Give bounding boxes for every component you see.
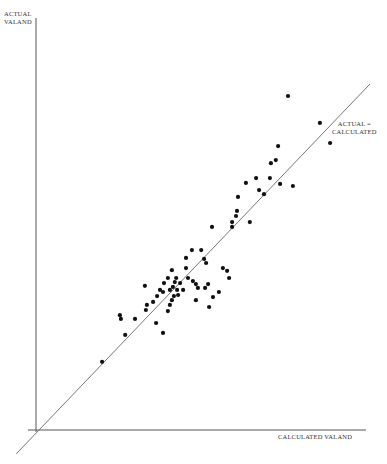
data-point bbox=[178, 281, 182, 285]
data-point bbox=[211, 295, 215, 299]
data-point bbox=[100, 360, 104, 364]
data-point bbox=[171, 285, 175, 289]
data-point bbox=[210, 225, 214, 229]
data-point bbox=[184, 266, 188, 270]
data-point bbox=[191, 279, 195, 283]
data-point bbox=[254, 176, 258, 180]
data-point bbox=[230, 220, 234, 224]
data-point bbox=[143, 284, 147, 288]
data-point bbox=[151, 300, 155, 304]
data-point bbox=[204, 261, 208, 265]
data-point bbox=[168, 303, 172, 307]
data-point bbox=[318, 121, 322, 125]
data-point bbox=[170, 268, 174, 272]
data-point bbox=[225, 269, 229, 273]
data-point bbox=[175, 288, 179, 292]
data-point bbox=[161, 331, 165, 335]
data-point bbox=[199, 248, 203, 252]
data-point bbox=[207, 305, 211, 309]
data-point bbox=[217, 290, 221, 294]
data-point bbox=[276, 144, 280, 148]
data-point bbox=[161, 290, 165, 294]
data-point bbox=[190, 248, 194, 252]
y-axis-label: ACTUAL VALAND bbox=[4, 10, 32, 26]
data-point bbox=[227, 276, 231, 280]
data-point bbox=[248, 220, 252, 224]
data-point bbox=[168, 288, 172, 292]
data-point bbox=[194, 282, 198, 286]
data-point bbox=[166, 276, 170, 280]
data-point bbox=[194, 298, 198, 302]
data-point bbox=[133, 317, 137, 321]
x-axis-label: CALCULATED VALAND bbox=[278, 433, 352, 441]
data-point bbox=[196, 286, 200, 290]
data-points bbox=[100, 94, 332, 364]
data-point bbox=[262, 192, 266, 196]
data-point bbox=[244, 181, 248, 185]
data-point bbox=[173, 280, 177, 284]
data-point bbox=[174, 276, 178, 280]
reference-line-label: ACTUAL = CALCULATED bbox=[332, 120, 377, 136]
data-point bbox=[123, 333, 127, 337]
data-point bbox=[181, 288, 185, 292]
data-point bbox=[230, 225, 234, 229]
data-point bbox=[154, 321, 158, 325]
data-point bbox=[257, 188, 261, 192]
data-point bbox=[202, 257, 206, 261]
data-point bbox=[144, 308, 148, 312]
data-point bbox=[206, 282, 210, 286]
data-point bbox=[269, 161, 273, 165]
data-point bbox=[172, 294, 176, 298]
data-point bbox=[236, 195, 240, 199]
data-point bbox=[184, 256, 188, 260]
data-point bbox=[221, 266, 225, 270]
data-point bbox=[118, 313, 122, 317]
data-point bbox=[286, 94, 290, 98]
data-point bbox=[119, 317, 123, 321]
data-point bbox=[274, 158, 278, 162]
data-point bbox=[328, 141, 332, 145]
reference-line-actual-equals-calculated bbox=[16, 84, 370, 454]
data-point bbox=[278, 182, 282, 186]
data-point bbox=[162, 281, 166, 285]
data-point bbox=[186, 276, 190, 280]
data-point bbox=[155, 294, 159, 298]
data-point bbox=[268, 176, 272, 180]
scatter-plot bbox=[0, 0, 387, 464]
data-point bbox=[234, 214, 238, 218]
data-point bbox=[203, 286, 207, 290]
data-point bbox=[166, 309, 170, 313]
data-point bbox=[235, 209, 239, 213]
data-point bbox=[291, 184, 295, 188]
data-point bbox=[170, 298, 174, 302]
data-point bbox=[176, 293, 180, 297]
data-point bbox=[145, 303, 149, 307]
